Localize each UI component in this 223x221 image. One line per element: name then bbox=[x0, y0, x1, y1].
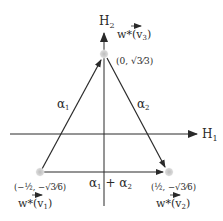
weight-diagram: H2 H1 w*(v3) (0, √3⁄3) (−½, −√3⁄6) w*(v1… bbox=[0, 0, 223, 221]
vertex-v1-dot bbox=[35, 167, 45, 177]
alpha2-label: α2 bbox=[137, 97, 150, 112]
vertex-v3-weight-label: w*(v3) bbox=[117, 26, 151, 42]
vertex-v1-coord-label: (−½, −√3⁄6) bbox=[14, 182, 66, 192]
vertex-v2-dot bbox=[164, 167, 174, 177]
svg-text:w*(v2): w*(v2) bbox=[156, 197, 190, 211]
alpha1-arrow bbox=[42, 60, 101, 169]
vertex-v2-coord-label: (½, −√3⁄6) bbox=[151, 182, 196, 192]
alpha2-arrow bbox=[107, 58, 165, 167]
vertex-v2-weight-label: w*(v2) bbox=[156, 195, 190, 211]
vertex-v1-weight-label: w*(v1) bbox=[18, 195, 52, 211]
vertex-v3-dot bbox=[99, 49, 109, 59]
h1-axis-label: H1 bbox=[202, 127, 218, 143]
h2-axis-label: H2 bbox=[99, 14, 115, 30]
svg-text:w*(v3): w*(v3) bbox=[117, 28, 151, 42]
vertex-v3-coord-label: (0, √3⁄3) bbox=[116, 56, 153, 66]
alpha1-label: α1 bbox=[57, 97, 70, 112]
alpha1-plus-alpha2-label: α1 + α2 bbox=[89, 176, 132, 191]
svg-text:w*(v1): w*(v1) bbox=[18, 197, 52, 211]
